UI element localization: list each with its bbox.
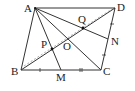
dashed-line (24, 9, 112, 66)
point-q (82, 27, 85, 30)
label-c: C (103, 65, 110, 77)
label-q: Q (78, 13, 86, 25)
label-p: P (41, 38, 47, 50)
point-a (34, 7, 36, 9)
label-o: O (63, 40, 71, 52)
label-a: A (24, 2, 32, 14)
label-d: D (117, 1, 125, 13)
diagonal-bd (21, 8, 115, 70)
geometry-diagram: A D B C O M N P Q (0, 0, 135, 91)
label-n: N (111, 35, 119, 47)
label-b: B (11, 65, 18, 77)
point-p (51, 48, 54, 51)
label-m: M (56, 71, 66, 83)
